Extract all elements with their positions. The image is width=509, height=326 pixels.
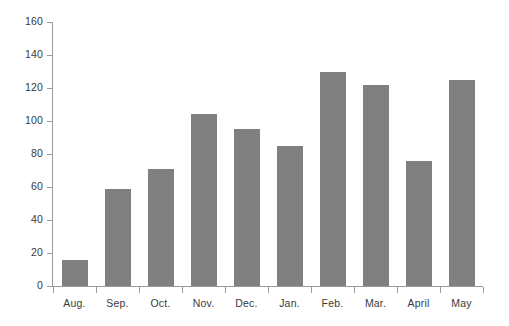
y-tick-label: 120: [3, 81, 43, 93]
bar: [363, 85, 389, 286]
y-tick-label: 100: [3, 114, 43, 126]
bar-chart: 020406080100120140160 Aug.Sep.Oct.Nov.De…: [0, 0, 509, 326]
bar: [277, 146, 303, 286]
x-tick-mark: [440, 287, 441, 293]
y-tick-label: 60: [3, 180, 43, 192]
x-tick-mark: [225, 287, 226, 293]
x-tick-label: May: [432, 297, 492, 309]
y-tick-label: 80: [3, 147, 43, 159]
bar: [62, 260, 88, 286]
plot-area: [53, 22, 483, 286]
y-tick-label: 0: [3, 279, 43, 291]
x-tick-mark: [397, 287, 398, 293]
y-tick-label: 160: [3, 15, 43, 27]
x-tick-mark: [268, 287, 269, 293]
x-tick-mark: [96, 287, 97, 293]
x-tick-mark: [182, 287, 183, 293]
bar: [406, 161, 432, 286]
y-tick-label: 140: [3, 48, 43, 60]
x-tick-mark: [311, 287, 312, 293]
bar: [320, 72, 346, 287]
x-tick-mark: [139, 287, 140, 293]
x-tick-mark: [483, 287, 484, 293]
y-tick-label: 40: [3, 213, 43, 225]
bar: [148, 169, 174, 286]
x-tick-mark: [354, 287, 355, 293]
bar: [234, 129, 260, 286]
bar: [105, 189, 131, 286]
bar: [191, 114, 217, 286]
bar: [449, 80, 475, 286]
x-tick-mark: [53, 287, 54, 293]
y-tick-label: 20: [3, 246, 43, 258]
